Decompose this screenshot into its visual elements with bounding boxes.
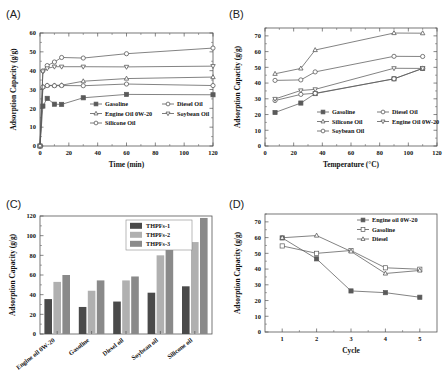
axis-text: Engine oil 0W-20 bbox=[372, 216, 418, 223]
axis-text: 120 bbox=[208, 149, 218, 156]
data-point-marker bbox=[45, 67, 49, 71]
axis-text: Gasoline bbox=[372, 226, 395, 233]
axis-text: 4 bbox=[384, 335, 388, 342]
data-point-marker bbox=[41, 70, 45, 74]
axis-text: 60 bbox=[30, 29, 36, 36]
axis-text: Adsorption Capacity (g/g) bbox=[9, 48, 18, 131]
axis-text: Engine oil 0W-20 bbox=[14, 336, 55, 370]
axis-text: 10 bbox=[255, 313, 261, 320]
data-point-marker bbox=[52, 65, 56, 69]
data-point-marker bbox=[124, 76, 128, 80]
panel-d: (D) 12345010203040506070CycleAdsorption … bbox=[223, 194, 447, 388]
axis-text: 60 bbox=[255, 48, 261, 55]
plot-frame bbox=[265, 214, 437, 332]
data-point-marker bbox=[299, 101, 303, 105]
panel-a-tag: (A) bbox=[6, 8, 21, 20]
panel-a-chart: 0204060801001200102030405060Time (min)Ad… bbox=[0, 0, 223, 194]
series-line bbox=[282, 238, 420, 297]
data-point-marker bbox=[81, 79, 85, 83]
axis-text: Adsorption Capacity (g/g) bbox=[233, 45, 242, 128]
axis-text: 10 bbox=[255, 127, 261, 134]
data-point-marker bbox=[211, 75, 215, 79]
data-point-marker bbox=[392, 77, 396, 81]
axis-text: 20 bbox=[290, 149, 296, 156]
axis-text: 40 bbox=[319, 149, 325, 156]
series-line bbox=[275, 33, 423, 74]
bar bbox=[200, 218, 208, 334]
data-point-marker bbox=[280, 244, 284, 248]
legend-marker bbox=[94, 121, 98, 125]
data-point-marker bbox=[124, 52, 128, 56]
axis-text: Diesel Oil bbox=[392, 108, 418, 115]
axis-text: 40 bbox=[94, 149, 100, 156]
axis-text: Adsorption Capacity (g/g) bbox=[8, 233, 17, 316]
axis-text: 30 bbox=[255, 95, 261, 102]
panel-a: (A) 0204060801001200102030405060Time (mi… bbox=[0, 0, 223, 194]
series-line bbox=[40, 48, 213, 146]
data-point-marker bbox=[299, 78, 303, 82]
data-point-marker bbox=[420, 31, 424, 35]
axis-text: 100 bbox=[404, 149, 414, 156]
data-point-marker bbox=[124, 92, 128, 96]
axis-text: 0 bbox=[33, 330, 36, 337]
bar bbox=[79, 307, 87, 334]
bar bbox=[44, 299, 52, 334]
axis-text: Soybean Oil bbox=[332, 127, 364, 134]
data-point-marker bbox=[392, 54, 396, 58]
data-point-marker bbox=[52, 102, 56, 106]
data-point-marker bbox=[124, 82, 128, 86]
bar bbox=[88, 291, 96, 334]
legend-marker bbox=[381, 110, 385, 114]
axis-text: 3 bbox=[349, 335, 352, 342]
axis-text: Soybean oil bbox=[130, 336, 159, 361]
axis-text: 40 bbox=[30, 67, 36, 74]
data-point-marker bbox=[59, 65, 63, 69]
legend-swatch bbox=[130, 232, 142, 238]
axis-text: 100 bbox=[179, 149, 189, 156]
bar bbox=[157, 255, 165, 334]
data-point-marker bbox=[392, 67, 396, 71]
axis-text: Gasoline bbox=[105, 100, 128, 107]
axis-text: Temperature (°C) bbox=[323, 160, 380, 169]
data-point-marker bbox=[52, 60, 56, 64]
data-point-marker bbox=[60, 55, 64, 59]
legend-swatch bbox=[130, 223, 142, 229]
axis-text: 80 bbox=[30, 252, 36, 259]
data-point-marker bbox=[211, 83, 215, 87]
legend-marker bbox=[361, 228, 365, 232]
axis-text: Diesel bbox=[372, 235, 388, 242]
axis-text: Silicone Oil bbox=[105, 119, 136, 126]
bar bbox=[131, 276, 139, 334]
axis-text: THPFs-1 bbox=[146, 222, 170, 229]
axis-text: 60 bbox=[123, 149, 129, 156]
data-point-marker bbox=[41, 85, 45, 89]
data-point-marker bbox=[273, 78, 277, 82]
axis-text: Silicone oil bbox=[166, 336, 194, 360]
series-line bbox=[282, 236, 420, 274]
data-point-marker bbox=[314, 233, 318, 237]
figure-container: (A) 0204060801001200102030405060Time (mi… bbox=[0, 0, 447, 388]
axis-text: 5 bbox=[418, 335, 421, 342]
data-point-marker bbox=[421, 54, 425, 58]
legend-marker bbox=[361, 218, 365, 222]
data-point-marker bbox=[81, 84, 85, 88]
axis-text: Diesel Oil bbox=[177, 100, 203, 107]
data-point-marker bbox=[45, 83, 49, 87]
data-point-marker bbox=[211, 93, 215, 97]
axis-text: 0 bbox=[258, 328, 261, 335]
legend-marker bbox=[321, 129, 325, 133]
series-line bbox=[275, 68, 423, 99]
axis-text: 0 bbox=[263, 149, 266, 156]
axis-text: 10 bbox=[30, 123, 36, 130]
axis-text: 1 bbox=[281, 335, 284, 342]
legend-marker bbox=[94, 111, 98, 115]
panel-c-tag: (C) bbox=[6, 198, 21, 210]
legend-marker bbox=[166, 112, 170, 116]
data-point-marker bbox=[52, 84, 56, 88]
axis-text: Gasoline bbox=[332, 108, 355, 115]
legend-marker bbox=[94, 102, 98, 106]
data-point-marker bbox=[60, 83, 64, 87]
axis-text: Time (min) bbox=[109, 160, 145, 169]
panel-d-tag: (D) bbox=[229, 198, 244, 210]
data-point-marker bbox=[45, 96, 49, 100]
